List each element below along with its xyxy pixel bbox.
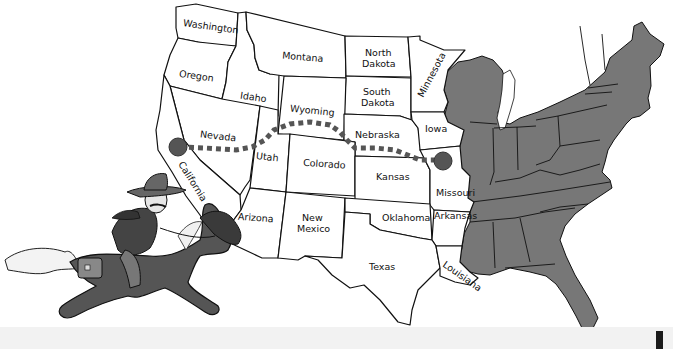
label-texas: Texas [368, 261, 395, 272]
horse-tail [5, 248, 80, 273]
label-north-dakota-2: Dakota [362, 58, 396, 69]
label-south-dakota-2: Dakota [361, 97, 395, 108]
bottom-band [0, 327, 673, 349]
label-nebraska: Nebraska [355, 129, 400, 140]
label-missouri: Missouri [436, 187, 475, 198]
label-arkansas: Arkansas [434, 210, 477, 221]
saddlebag-buckle [85, 265, 90, 270]
edge-bar [656, 331, 663, 349]
state-montana [246, 12, 346, 78]
pony-express-map: Washington Oregon Idaho Montana North Da… [0, 0, 673, 349]
label-kansas: Kansas [376, 171, 410, 182]
label-new-mexico-1: New [302, 212, 323, 223]
route-end-marker [434, 152, 452, 170]
label-new-mexico-2: Mexico [297, 223, 330, 234]
label-north-dakota-1: North [365, 47, 392, 58]
rider-hat-crown [144, 174, 168, 190]
us-map: Washington Oregon Idaho Montana North Da… [0, 0, 673, 349]
route-start-marker [169, 138, 187, 156]
label-utah: Utah [256, 150, 280, 163]
rider-scarf [112, 210, 140, 219]
label-south-dakota-1: South [363, 86, 391, 97]
label-oklahoma: Oklahoma [382, 212, 430, 223]
label-iowa: Iowa [425, 123, 447, 134]
